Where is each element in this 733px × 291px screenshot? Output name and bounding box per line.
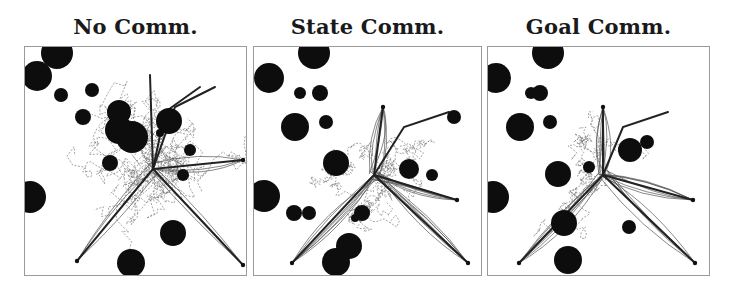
start-point	[693, 261, 697, 265]
obstacle	[319, 115, 333, 129]
obstacle	[323, 150, 349, 176]
obstacle	[322, 248, 350, 276]
start-point	[381, 105, 385, 109]
obstacle	[116, 121, 148, 153]
obstacle	[102, 155, 118, 171]
panel-title-state-comm: State Comm.	[253, 14, 482, 39]
panel-title-no-comm: No Comm.	[24, 14, 247, 39]
obstacle	[25, 181, 46, 213]
start-point	[601, 105, 605, 109]
obstacle	[294, 87, 306, 99]
obstacle	[399, 159, 419, 179]
obstacle	[618, 138, 642, 162]
obstacle	[488, 181, 509, 213]
obstacle	[351, 214, 359, 222]
start-point	[691, 198, 695, 202]
obstacle	[426, 169, 438, 181]
obstacle	[117, 249, 145, 276]
obstacle	[254, 63, 284, 93]
start-point	[517, 261, 521, 265]
panel-goal-comm	[487, 46, 710, 276]
obstacle	[281, 113, 309, 141]
start-point	[241, 158, 245, 162]
panel-no-comm	[24, 46, 247, 276]
start-point	[455, 198, 459, 202]
obstacle	[543, 115, 557, 129]
obstacle	[254, 180, 280, 212]
panel-title-goal-comm: Goal Comm.	[487, 14, 710, 39]
obstacle	[447, 110, 461, 124]
start-point	[466, 261, 470, 265]
trajectory-plot-no-comm	[25, 47, 247, 276]
obstacle	[622, 220, 636, 234]
obstacle	[545, 161, 571, 187]
obstacle	[85, 83, 99, 97]
trajectory-plot-state-comm	[254, 47, 482, 276]
start-point	[241, 263, 245, 267]
obstacle	[286, 205, 302, 221]
obstacle	[640, 135, 654, 149]
trajectory-plot-goal-comm	[488, 47, 710, 276]
obstacle	[312, 85, 328, 101]
obstacle	[302, 206, 316, 220]
obstacle	[506, 113, 534, 141]
obstacle	[177, 169, 189, 181]
obstacle	[532, 47, 564, 69]
obstacle	[75, 109, 91, 125]
obstacle	[184, 144, 196, 156]
obstacle	[551, 210, 577, 236]
obstacle	[156, 129, 164, 137]
obstacle	[554, 246, 582, 274]
panel-state-comm	[253, 46, 482, 276]
obstacle	[583, 161, 595, 173]
obstacle	[54, 88, 68, 102]
start-point	[75, 259, 79, 263]
obstacle	[488, 63, 511, 93]
obstacle	[160, 220, 186, 246]
obstacle	[532, 85, 548, 101]
obstacle	[298, 47, 330, 69]
start-point	[290, 261, 294, 265]
